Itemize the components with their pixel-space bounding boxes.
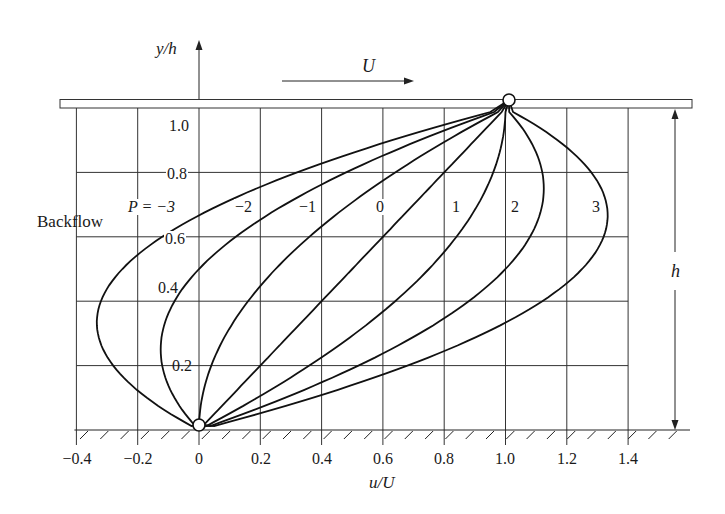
plate-velocity-arrow: [282, 78, 414, 85]
y-tick-0-8: 0.8: [166, 166, 188, 182]
y-axis-arrow: [196, 40, 203, 99]
curve-label-p-minus-1: −1: [298, 199, 317, 215]
top-plate-node: [503, 94, 515, 106]
curve-label-p-2: 2: [510, 199, 520, 215]
x-tick-m0-4: −0.4: [61, 451, 92, 467]
curve-p-1: [199, 100, 509, 426]
curve-label-p-minus-3: P = −3: [127, 199, 176, 215]
y-tick-0-6: 0.6: [164, 231, 186, 247]
curve-label-p-3: 3: [591, 199, 601, 215]
grid-lines: [76, 108, 628, 445]
x-tick-1-4: 1.4: [617, 451, 639, 467]
x-tick-0-6: 0.6: [372, 451, 394, 467]
curve-p2: [199, 100, 544, 426]
curve-p0: [199, 100, 509, 426]
x-tick-0: 0: [194, 451, 204, 467]
y-tick-0-2: 0.2: [171, 358, 193, 374]
x-axis-label: u/U: [368, 474, 396, 491]
velocity-profile-curves: [97, 100, 608, 426]
x-tick-1-2: 1.2: [556, 451, 578, 467]
x-tick-0-8: 0.8: [433, 451, 455, 467]
flow-profile-chart: [0, 0, 725, 514]
curve-label-p-0: 0: [375, 199, 385, 215]
curve-p1: [199, 100, 509, 426]
backflow-label: Backflow: [36, 213, 104, 230]
x-tick-0-2: 0.2: [250, 451, 272, 467]
x-tick-m0-2: −0.2: [122, 451, 153, 467]
x-tick-0-4: 0.4: [311, 451, 333, 467]
curve-label-p-minus-2: −2: [234, 199, 253, 215]
top-plate: [60, 100, 692, 109]
bottom-wall-node: [193, 419, 205, 431]
height-label: h: [670, 262, 681, 280]
y-tick-0-4: 0.4: [157, 280, 179, 296]
curve-label-p-minus-3-text: P = −3: [128, 198, 175, 215]
plate-velocity-label: U: [361, 57, 376, 75]
curve-label-p-1: 1: [451, 199, 461, 215]
curve-p-3: [97, 100, 509, 426]
y-tick-1-0: 1.0: [168, 118, 190, 134]
bottom-wall: [74, 430, 690, 439]
x-tick-1-0: 1.0: [494, 451, 516, 467]
y-axis-label: y/h: [155, 40, 178, 57]
